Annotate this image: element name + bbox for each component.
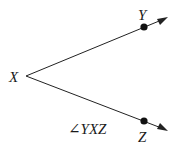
- angle-caption: ∠YXZ: [68, 121, 107, 137]
- label-x: X: [8, 69, 19, 85]
- arrowhead-z-icon: [157, 123, 168, 131]
- angle-diagram: X Y Z ∠YXZ: [0, 0, 179, 154]
- label-z: Z: [138, 129, 147, 145]
- arrowhead-y-icon: [157, 17, 168, 25]
- point-z: [140, 117, 147, 124]
- label-y: Y: [138, 7, 148, 23]
- point-y: [140, 23, 147, 30]
